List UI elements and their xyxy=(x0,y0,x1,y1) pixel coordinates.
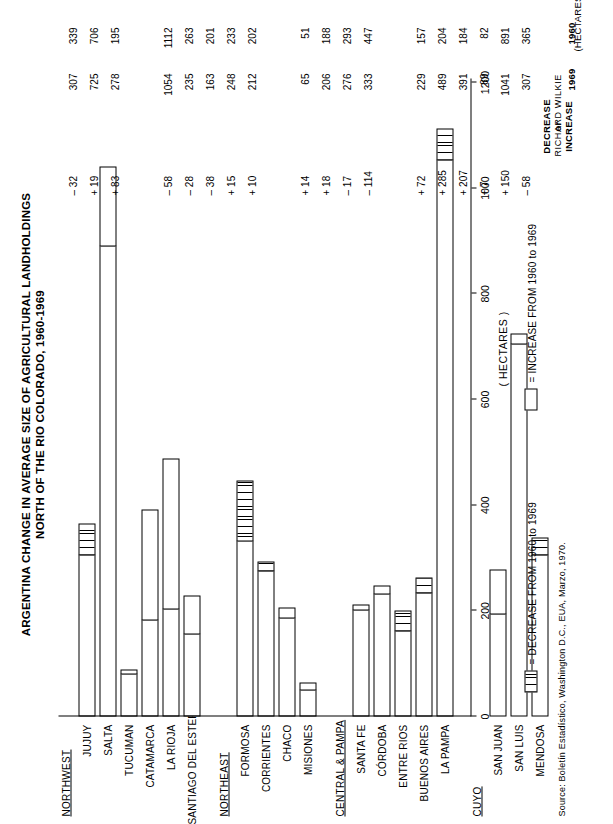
units-note: (HECTARES) xyxy=(572,0,583,52)
x-axis-tick-label: 600 xyxy=(478,379,490,419)
bar-base xyxy=(373,593,390,716)
legend-label-increase: = INCREASE FROM 1960 to 1969 xyxy=(526,223,537,382)
bar-increase-segment xyxy=(162,458,179,610)
source-note: Source: Boletín Estadístico, Washington … xyxy=(556,542,566,816)
value-change: – 58 xyxy=(520,116,531,196)
column-header-change-line-2: or xyxy=(552,77,563,177)
bar-increase-segment xyxy=(373,585,390,594)
bar-base xyxy=(141,619,158,716)
bar-increase-segment xyxy=(141,509,158,619)
x-axis-tick xyxy=(471,292,476,293)
bar-base xyxy=(120,673,137,716)
value-change: + 72 xyxy=(415,116,426,196)
x-axis-tick xyxy=(471,187,476,188)
x-axis-tick xyxy=(471,715,476,716)
bar-base xyxy=(278,617,295,716)
group-label-central-pampa: CENTRAL & PAMPA xyxy=(334,719,345,816)
bar-increase-segment xyxy=(299,682,316,690)
value-change: + 15 xyxy=(225,116,236,196)
category-label: JUJUY xyxy=(81,724,92,824)
category-label: MISIONES xyxy=(302,724,313,824)
bar-decrease-segment xyxy=(78,523,95,555)
legend-swatch-decrease xyxy=(524,670,537,692)
bar-increase-segment xyxy=(120,669,137,674)
bar-base xyxy=(299,689,316,716)
category-label: CORRIENTES xyxy=(260,724,271,824)
x-axis-tick-label: 0 xyxy=(478,696,490,736)
category-label: ENTRE RIOS xyxy=(397,724,408,824)
bar-base xyxy=(257,570,274,716)
bar-increase-segment xyxy=(278,607,295,618)
value-change: + 285 xyxy=(436,116,447,196)
x-axis-tick xyxy=(471,81,476,82)
category-label: SALTA xyxy=(102,724,113,824)
chart-page: ARGENTINA CHANGE IN AVERAGE SIZE OF AGRI… xyxy=(0,0,613,824)
group-label-northeast: NORTHEAST xyxy=(218,752,229,816)
x-axis-tick xyxy=(471,504,476,505)
bar-base xyxy=(99,245,116,716)
category-label: LA RIOJA xyxy=(165,724,176,824)
category-label: LA PAMPA xyxy=(439,724,450,824)
category-label: CHACO xyxy=(281,724,292,824)
bar-base xyxy=(489,613,506,716)
x-axis-tick xyxy=(471,398,476,399)
group-label-cuyo: CUYO xyxy=(471,786,482,816)
category-label: BUENOS AIRES xyxy=(418,724,429,824)
chart-title: ARGENTINA CHANGE IN AVERAGE SIZE OF AGRI… xyxy=(18,154,46,674)
value-change: + 14 xyxy=(299,116,310,196)
category-label: SAN JUAN xyxy=(492,724,503,824)
chart-title-line-2: NORTH OF THE RIO COLORADO, 1960-1969 xyxy=(32,154,46,674)
value-change: – 114 xyxy=(362,116,373,196)
y-axis-line xyxy=(58,715,471,716)
value-change: + 18 xyxy=(320,116,331,196)
group-label-northwest: NORTHWEST xyxy=(60,749,71,816)
value-change: + 7 xyxy=(478,116,489,196)
bar-increase-segment xyxy=(510,333,527,344)
legend-swatch-increase xyxy=(524,388,537,410)
value-change: + 83 xyxy=(109,116,120,196)
bar-increase-segment xyxy=(183,595,200,634)
bar-decrease-segment xyxy=(394,610,411,631)
column-header-change-line-3: INCREASE xyxy=(563,77,574,177)
value-change: + 150 xyxy=(499,116,510,196)
x-axis-tick-label: 800 xyxy=(478,273,490,313)
bar-base xyxy=(78,554,95,716)
bar-decrease-segment xyxy=(236,480,253,541)
category-label: MENDOSA xyxy=(534,724,545,824)
bar-base xyxy=(183,633,200,716)
x-axis-tick-label: 200 xyxy=(478,590,490,630)
value-change: + 207 xyxy=(457,116,468,196)
category-label: TUCUMAN xyxy=(123,724,134,824)
bar-base xyxy=(352,609,369,716)
x-axis-tick-label: 400 xyxy=(478,485,490,525)
legend-label-decrease: = DECREASE FROM 1960 to 1969 xyxy=(526,501,537,664)
value-change: – 38 xyxy=(204,116,215,196)
x-axis-title: ( HECTARES ) xyxy=(496,311,508,386)
chart-title-line-1: ARGENTINA CHANGE IN AVERAGE SIZE OF AGRI… xyxy=(18,154,32,674)
bar-base xyxy=(436,159,453,716)
category-label: SANTIAGO DEL ESTERO xyxy=(186,724,197,824)
x-axis-tick xyxy=(471,609,476,610)
x-axis-line xyxy=(470,78,471,716)
bar-base xyxy=(162,608,179,716)
column-header-change: DECREASEorINCREASE xyxy=(541,77,574,177)
bar-base xyxy=(415,592,432,716)
value-change: + 10 xyxy=(246,116,257,196)
column-header-change-line-1: DECREASE xyxy=(541,77,552,177)
category-label: SAN LUIS xyxy=(513,724,524,824)
value-change: – 17 xyxy=(341,116,352,196)
category-label: FORMOSA xyxy=(239,724,250,824)
bar-increase-segment xyxy=(489,569,506,614)
value-change: + 19 xyxy=(88,116,99,196)
category-label: CATAMARCA xyxy=(144,724,155,824)
bar-base xyxy=(394,630,411,716)
value-change: – 28 xyxy=(183,116,194,196)
bar-decrease-segment xyxy=(257,561,274,571)
value-change: – 32 xyxy=(67,116,78,196)
category-label: CÓRDOBA xyxy=(376,724,387,824)
bar-increase-segment xyxy=(352,604,369,610)
bar-base xyxy=(236,540,253,716)
value-change: – 58 xyxy=(162,116,173,196)
category-label: SANTA FE xyxy=(355,724,366,824)
bar-decrease-segment xyxy=(415,577,432,593)
